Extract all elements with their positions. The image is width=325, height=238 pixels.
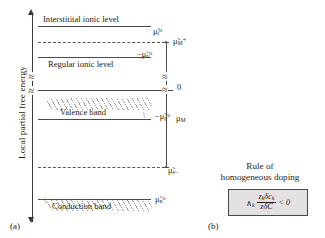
axis-label: Local partial free energy: [18, 38, 27, 188]
panel-b-tag: (b): [208, 222, 219, 231]
label-interstitial-ionic-level: Interstitital ionic level: [43, 15, 119, 24]
label-regular-ionic-level: Regular ionic level: [48, 60, 113, 69]
bracket-label-mu-M-plus: μ̃M+: [173, 38, 186, 47]
level-line-regular-ionic: [38, 57, 151, 58]
bracket-break-mu-M-plus: ≈: [162, 72, 168, 81]
formula-fraction: zkδck zδC: [257, 193, 277, 212]
axis-break-mark-upper: ≈: [29, 72, 35, 81]
axis-arrow-down-icon: [28, 217, 34, 223]
rule-title: Rule of homogeneous doping: [197, 161, 323, 184]
formula-denominator: zδC: [258, 203, 274, 212]
leader-tick-conduction: /: [42, 196, 48, 205]
level-line-zero: [38, 90, 173, 91]
symbol-mu-p-valence: −μ̃po: [155, 113, 170, 122]
axis-break-mark-lower: ≈: [29, 86, 35, 95]
rule-formula: ∧k zkδck zδC < 0: [246, 193, 290, 212]
symbol-mu-n-conduction: μ̃no: [155, 196, 165, 205]
bracket-break-mu-M: ≈: [162, 85, 168, 94]
formula-comparator: < 0: [278, 198, 290, 207]
rule-formula-box: ∧k zkδck zδC < 0: [228, 189, 308, 216]
level-line-metal-ion: [38, 42, 165, 43]
label-valence-band: Valence band: [60, 108, 106, 117]
level-line-conduction-band: [38, 199, 151, 200]
formula-conjunction-subscript: k: [252, 201, 255, 207]
label-conduction-band: Conduction band: [52, 202, 111, 211]
rule-title-line2: homogeneous doping: [197, 172, 323, 183]
figure-energy-level-diagram: Local partial free energy ≈ ≈ Interstiti…: [0, 0, 325, 238]
symbol-zero: 0: [177, 84, 181, 92]
symbol-mu-v-regular: −μ̃vo: [137, 51, 152, 60]
bracket-label-mu-M: μM: [176, 115, 186, 124]
level-line-valence-band: [38, 119, 151, 120]
level-line-electron: [38, 167, 165, 168]
free-energy-axis: [32, 14, 33, 222]
panel-a-tag: (a): [10, 222, 20, 231]
symbol-mu-e-minus: μ̃e−: [168, 167, 178, 176]
rule-title-line1: Rule of: [197, 161, 323, 172]
bracket-line-mu-M: [166, 90, 167, 167]
formula-conjunction-symbol: ∧k: [246, 198, 255, 208]
symbol-mu-i-interstitial: μ̃io: [153, 28, 162, 37]
level-line-interstitial: [38, 26, 151, 27]
